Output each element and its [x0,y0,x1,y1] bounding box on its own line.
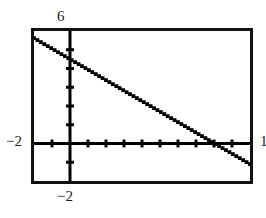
data-point-pixel [101,76,105,80]
data-point-pixel [231,152,235,156]
data-point-pixel [108,80,112,84]
data-point-pixel [248,162,250,166]
data-point-pixel [197,132,201,136]
data-point-pixel [169,116,173,120]
data-point-pixel [221,146,225,150]
data-point-pixel [104,78,108,82]
data-point-pixel [166,114,170,118]
plot-frame [31,28,253,184]
data-point-pixel [125,90,129,94]
data-point-pixel [238,156,242,160]
data-point-pixel [87,68,91,72]
data-point-pixel [159,110,163,114]
data-point-pixel [118,86,122,90]
data-point-pixel [53,48,57,52]
data-point-pixel [66,56,70,60]
y-axis-min-label: −2 [57,189,73,204]
data-point-pixel [36,38,40,42]
data-point-pixel [245,160,249,164]
graph-screenshot: 6 −2 −2 1 [0,0,266,218]
data-point-pixel [142,100,146,104]
data-point-pixel [94,72,98,76]
data-point-pixel [77,62,81,66]
data-point-pixel [193,130,197,134]
data-point-pixel [152,106,156,110]
plot-surface [34,31,250,181]
data-point-pixel [70,58,74,62]
data-point-pixel [207,138,211,142]
data-point-pixel [228,150,232,154]
data-point-pixel [114,84,118,88]
data-point-pixel [138,98,142,102]
data-point-pixel [217,144,221,148]
data-point-pixel [80,64,84,68]
data-point-pixel [241,158,245,162]
data-point-pixel [135,96,139,100]
data-point-pixel [200,134,204,138]
data-point-pixel [149,104,153,108]
data-point-pixel [73,60,77,64]
data-point-pixel [46,44,50,48]
data-point-pixel [145,102,149,106]
data-point-pixel [39,40,43,44]
data-point-pixel [183,124,187,128]
x-axis-max-label: 1 [260,134,266,149]
data-point-pixel [214,142,218,146]
data-point-pixel [190,128,194,132]
data-point-pixel [121,88,125,92]
data-point-pixel [128,92,132,96]
data-point-pixel [173,118,177,122]
data-point-pixel [56,50,60,54]
data-point-pixel [63,54,67,58]
data-point-pixel [186,126,190,130]
data-point-pixel [176,120,180,124]
data-point-pixel [97,74,101,78]
data-point-pixel [180,122,184,126]
y-axis-max-label: 6 [57,9,65,24]
data-point-pixel [210,140,214,144]
data-point-pixel [111,82,115,86]
data-point-pixel [42,42,46,46]
data-point-pixel [204,136,208,140]
data-point-pixel [49,46,53,50]
data-point-pixel [162,112,166,116]
plot-svg [34,31,250,181]
data-point-pixel [84,66,88,70]
x-axis-min-label: −2 [6,134,22,149]
data-point-pixel [132,94,136,98]
data-point-pixel [224,148,228,152]
data-point-pixel [234,154,238,158]
data-point-pixel [90,70,94,74]
data-point-pixel [60,52,64,56]
data-point-pixel [156,108,160,112]
